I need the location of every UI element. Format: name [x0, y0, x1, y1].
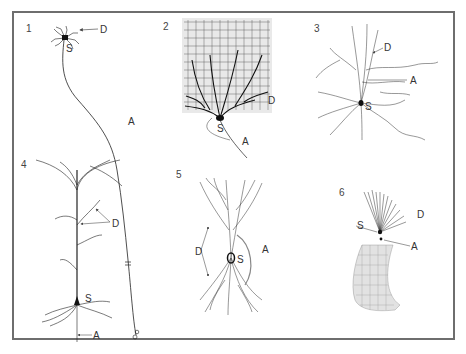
neuron-6-dendrites: [364, 190, 406, 232]
label-d-5: D: [195, 246, 202, 257]
axon-1: [63, 40, 136, 335]
panel-number-3: 3: [314, 23, 320, 34]
panel-number-5: 5: [176, 169, 182, 180]
soma-6: [378, 230, 382, 234]
label-s-2: S: [217, 123, 224, 134]
panel-3: 3 D S A: [314, 23, 438, 140]
panel-4: 4 D S A: [21, 159, 122, 342]
label-d-3: D: [384, 42, 391, 53]
label-s-1: S: [66, 43, 73, 54]
label-a-6: A: [411, 241, 418, 252]
panel-number-4: 4: [21, 159, 27, 170]
label-d-4: D: [112, 218, 119, 229]
neuron-4-dendrites: [36, 160, 122, 326]
neuron-figure: 1 D S A 2: [0, 0, 466, 354]
label-s-3: S: [365, 101, 372, 112]
label-a-1: A: [128, 116, 135, 127]
label-a-5: A: [262, 244, 269, 255]
label-d-2: D: [268, 95, 275, 106]
panel-number-2: 2: [163, 21, 169, 32]
label-d-1: D: [100, 24, 107, 35]
panel-2: 2 D S A: [163, 18, 275, 158]
label-s-6: S: [357, 220, 364, 231]
soma-3: [359, 100, 364, 106]
label-a-2: A: [242, 136, 249, 147]
label-d-6: D: [417, 209, 424, 220]
label-s-5: S: [237, 254, 244, 265]
panel-number-6: 6: [339, 187, 345, 198]
panel-number-1: 1: [26, 23, 32, 34]
label-a-4: A: [93, 330, 100, 341]
panel-5: 5 D S A: [176, 169, 269, 315]
label-a-3: A: [410, 75, 417, 86]
soma-1: [62, 35, 68, 40]
soma-4: [74, 296, 80, 305]
panel-6: 6 D S A: [339, 187, 424, 311]
neuron-3-dendrites: [316, 24, 438, 140]
neuron-5-dendrites: [200, 178, 262, 315]
label-s-4: S: [85, 293, 92, 304]
panel-1: 1 D S A: [26, 23, 139, 339]
